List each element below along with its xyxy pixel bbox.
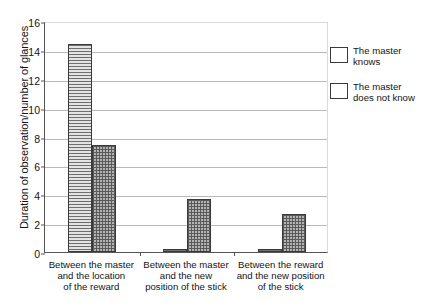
y-axis-title: Duration of observation/number of glance… <box>19 0 30 258</box>
y-axis-tick-mark <box>41 167 45 168</box>
category-label-line: position of the stick <box>145 281 227 292</box>
chart-legend: The master knows The master does not kno… <box>330 46 422 118</box>
category-label-line: Between the reward <box>238 259 323 270</box>
y-axis-tick-label: 10 <box>28 104 40 115</box>
y-axis-tick-label: 0 <box>34 249 40 260</box>
y-axis-tick-mark <box>41 23 45 24</box>
y-axis-tick-label: 14 <box>28 47 40 58</box>
y-axis-tick-label: 2 <box>34 220 40 231</box>
legend-item: The master knows <box>330 46 422 67</box>
bar <box>92 145 116 252</box>
y-axis-tick-label: 8 <box>34 133 40 144</box>
category-label-line: Between the master <box>143 259 228 270</box>
y-axis-tick-label: 6 <box>34 162 40 173</box>
bar <box>282 214 306 252</box>
category-label-line: and the new <box>160 270 212 281</box>
category-separator-tick <box>234 252 235 256</box>
category-label-line: and the location <box>57 270 125 281</box>
bar <box>163 249 187 252</box>
bar-chart: Duration of observation/number of glance… <box>0 0 424 307</box>
legend-swatch-master-knows-icon <box>330 47 348 63</box>
y-axis-tick-label: 4 <box>34 191 40 202</box>
category-label-line: of the stick <box>258 281 304 292</box>
y-axis-tick-label: 12 <box>28 76 40 87</box>
category-separator-tick <box>140 252 141 256</box>
y-axis-tick-mark <box>41 109 45 110</box>
legend-label-line1: The master <box>353 45 402 56</box>
legend-swatch-master-does-not-know-icon <box>330 83 348 99</box>
bar <box>258 249 282 252</box>
x-axis-category-label: Between the rewardand the new positionof… <box>233 259 328 293</box>
x-axis-category-label: Between the masterand the newposition of… <box>139 259 234 293</box>
legend-item: The master does not know <box>330 82 422 103</box>
bar <box>187 199 211 252</box>
bar <box>68 44 92 252</box>
category-label-line: and the new position <box>237 270 325 281</box>
legend-label-line1: The master <box>353 81 402 92</box>
legend-label: The master knows <box>353 46 402 67</box>
y-axis-tick-label: 16 <box>28 18 40 29</box>
plot-area: 0246810121416 <box>44 22 328 253</box>
category-label-line: of the reward <box>63 281 119 292</box>
y-axis-tick-mark <box>41 51 45 52</box>
legend-label-line2: does not know <box>353 92 415 103</box>
y-axis-tick-mark <box>41 196 45 197</box>
x-axis-category-label: Between the masterand the locationof the… <box>44 259 139 293</box>
y-axis-tick-mark <box>41 138 45 139</box>
legend-label: The master does not know <box>353 82 415 103</box>
legend-label-line2: knows <box>353 56 380 67</box>
y-axis-tick-mark <box>41 80 45 81</box>
category-label-line: Between the master <box>49 259 134 270</box>
y-axis-tick-mark <box>41 254 45 255</box>
y-axis-tick-mark <box>41 225 45 226</box>
